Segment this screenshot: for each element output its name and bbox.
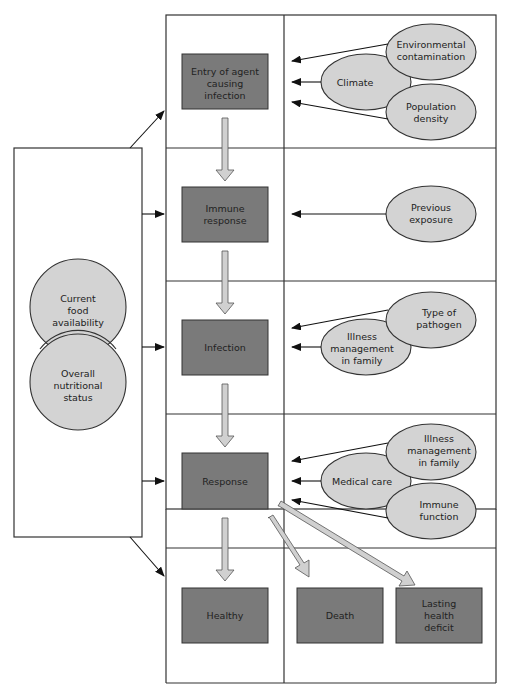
svg-text:Type ofpathogen: Type ofpathogen (416, 307, 461, 330)
svg-text:Immuneresponse: Immuneresponse (203, 203, 246, 226)
infection-model-diagram: Currentfoodavailability Overallnutrition… (0, 0, 505, 692)
svg-text:Environmentalcontamination: Environmentalcontamination (396, 39, 465, 62)
svg-text:Climate: Climate (337, 77, 374, 88)
svg-text:Medical care: Medical care (332, 476, 392, 487)
outcome-healthy-label: Healthy (207, 610, 244, 621)
svg-text:Healthy: Healthy (207, 610, 244, 621)
population-density-ellipse (386, 84, 476, 140)
svg-text:Immunefunction: Immunefunction (419, 499, 458, 522)
box-response-label: Response (202, 476, 248, 487)
circle-text: Current (60, 293, 96, 304)
outcome-death-label: Death (326, 610, 355, 621)
svg-text:Death: Death (326, 610, 355, 621)
box-immune-label: Immune (205, 203, 244, 214)
svg-text:Response: Response (202, 476, 248, 487)
box-infection-label: Infection (204, 342, 245, 353)
outcome-deficit-label: Lasting (422, 598, 456, 609)
svg-text:Infection: Infection (204, 342, 245, 353)
box-entry-label: Entry of agent (191, 66, 259, 77)
svg-text:Lastinghealthdeficit: Lastinghealthdeficit (422, 598, 456, 633)
svg-text:Previousexposure: Previousexposure (409, 202, 453, 225)
